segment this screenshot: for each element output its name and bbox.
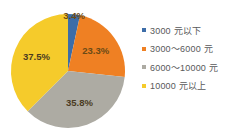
chart-legend: 3000 元以下 3000～6000 元 6000～10000 元 10000 … (142, 24, 232, 92)
square-marker-icon (142, 84, 146, 88)
legend-item-1[interactable]: 3000～6000 元 (142, 43, 232, 55)
pie-slice-value-label: 37.5% (23, 51, 50, 62)
pie-slice-group (11, 14, 125, 128)
legend-item-3[interactable]: 10000 元以上 (142, 80, 232, 92)
pie-slice-value-label: 23.3% (82, 45, 109, 56)
legend-item-label: 6000～10000 元 (150, 61, 218, 74)
pie-chart-svg: 3.4%23.3%35.8%37.5% (0, 0, 136, 139)
pie-slice-value-label: 3.4% (63, 10, 85, 21)
square-marker-icon (142, 47, 146, 51)
legend-item-label: 10000 元以上 (150, 79, 206, 92)
pie-slice-value-label: 35.8% (66, 97, 93, 108)
legend-item-label: 3000～6000 元 (150, 42, 213, 55)
pie-chart-figure: 3.4%23.3%35.8%37.5% 3000 元以下 3000～6000 元… (0, 0, 232, 139)
square-marker-icon (142, 65, 146, 69)
legend-item-0[interactable]: 3000 元以下 (142, 24, 232, 36)
legend-item-2[interactable]: 6000～10000 元 (142, 61, 232, 73)
pie-chart-plot-area: 3.4%23.3%35.8%37.5% (0, 0, 136, 139)
legend-item-label: 3000 元以下 (150, 24, 201, 37)
square-marker-icon (142, 28, 146, 32)
